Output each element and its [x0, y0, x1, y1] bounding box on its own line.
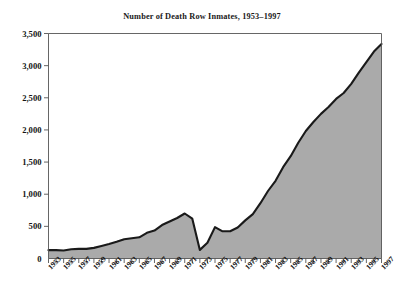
x-tick-label: 1975 [213, 255, 230, 272]
x-tick-label: 1967 [152, 255, 169, 272]
x-tick-label: 1963 [122, 255, 139, 272]
x-tick-label: 1979 [243, 255, 260, 272]
x-tick-label: 1977 [228, 255, 245, 272]
x-tick-label: 1959 [91, 255, 108, 272]
x-tick-label: 1965 [137, 255, 154, 272]
x-tick-label: 1961 [107, 255, 124, 272]
x-axis-tick-labels: 1953195519571959196119631965196719691971… [0, 0, 404, 302]
x-tick-label: 1969 [167, 255, 184, 272]
x-tick-label: 1997 [379, 255, 396, 272]
x-tick-label: 1973 [197, 255, 214, 272]
x-tick-label: 1981 [258, 255, 275, 272]
x-tick-label: 1989 [318, 255, 335, 272]
x-tick-label: 1991 [334, 255, 351, 272]
x-tick-label: 1995 [364, 255, 381, 272]
x-tick-label: 1983 [273, 255, 290, 272]
x-tick-label: 1955 [61, 255, 78, 272]
x-tick-label: 1993 [349, 255, 366, 272]
x-tick-label: 1953 [46, 255, 63, 272]
x-tick-label: 1987 [303, 255, 320, 272]
death-row-inmates-area-chart: Number of Death Row Inmates, 1953–1997 0… [0, 0, 404, 302]
x-tick-label: 1985 [288, 255, 305, 272]
x-tick-label: 1957 [76, 255, 93, 272]
x-tick-label: 1971 [182, 255, 199, 272]
